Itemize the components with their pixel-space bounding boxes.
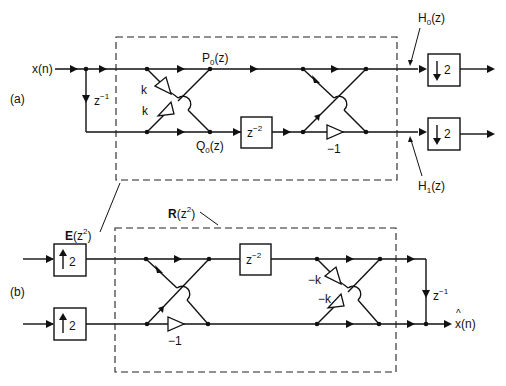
arrow-icon bbox=[99, 65, 107, 73]
part-b-label: (b) bbox=[10, 285, 25, 299]
arrow-icon bbox=[155, 265, 163, 273]
lattice-filter-bank-diagram: (a) x(n) z−1 bbox=[0, 0, 506, 386]
input-label-x-n: x(n) bbox=[32, 62, 53, 76]
arrow-icon bbox=[177, 65, 185, 73]
gain-minus-1-triangle bbox=[327, 125, 343, 139]
gain-neg-k-top-label: −k bbox=[308, 273, 322, 287]
gain-minus-1-triangle bbox=[168, 317, 184, 331]
polyphase-matrix-E-box bbox=[116, 37, 397, 180]
gain-k-top-label: k bbox=[141, 83, 148, 97]
h1-label: H1(z) bbox=[418, 179, 445, 195]
arrow-icon bbox=[444, 320, 452, 328]
gain-minus-1-label: −1 bbox=[168, 334, 182, 348]
arrow-icon bbox=[46, 320, 54, 328]
arrow-icon bbox=[407, 255, 415, 263]
gain-k-bottom-label: k bbox=[142, 104, 149, 118]
arrow-icon bbox=[250, 65, 258, 73]
delay-z-label: z−1 bbox=[94, 92, 110, 108]
svg-text:2: 2 bbox=[69, 255, 76, 269]
arrow-icon bbox=[283, 128, 291, 136]
arrow-icon bbox=[487, 130, 495, 138]
gain-k-triangle-bottom bbox=[158, 102, 174, 116]
gain-neg-k-bottom-label: −k bbox=[318, 292, 332, 306]
p0-label: P0(z) bbox=[202, 51, 228, 67]
arrow-icon bbox=[46, 255, 54, 263]
arrow-icon bbox=[346, 255, 354, 263]
arrow-icon bbox=[346, 320, 354, 328]
arrow-icon bbox=[419, 65, 427, 73]
arrow-down-icon bbox=[422, 290, 430, 298]
arrow-icon bbox=[177, 128, 185, 136]
part-a-analysis-bank: (a) x(n) z−1 bbox=[10, 11, 495, 243]
arrow-icon bbox=[419, 128, 427, 136]
gain-minus-1-label: −1 bbox=[327, 142, 341, 156]
output-label-x-hat-n: x(n) bbox=[455, 317, 476, 331]
arrow-down-icon bbox=[82, 95, 90, 103]
E-matrix-label: E(z2) bbox=[65, 227, 91, 243]
R-matrix-label: R(z2) bbox=[168, 205, 195, 221]
part-a-label: (a) bbox=[10, 92, 25, 106]
h0-label: H0(z) bbox=[418, 11, 445, 27]
svg-text:2: 2 bbox=[444, 63, 451, 77]
arrow-icon bbox=[407, 320, 415, 328]
svg-text:2: 2 bbox=[69, 319, 76, 333]
arrow-icon bbox=[233, 128, 241, 136]
arrow-icon bbox=[70, 65, 78, 73]
arrow-icon bbox=[331, 65, 339, 73]
arrow-icon bbox=[174, 255, 182, 263]
svg-text:2: 2 bbox=[444, 127, 451, 141]
q0-label: Q0(z) bbox=[196, 139, 224, 155]
arrow-icon bbox=[312, 75, 320, 83]
delay-z-label: z−1 bbox=[433, 287, 449, 303]
arrow-icon bbox=[487, 65, 495, 73]
